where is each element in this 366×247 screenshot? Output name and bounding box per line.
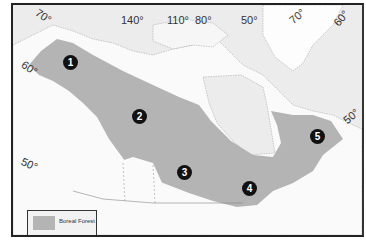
- region-marker-4: 4: [242, 181, 257, 196]
- map-frame: 70° 140° 110° 80° 50° 70° 60° 60° 50° 50…: [11, 3, 364, 237]
- region-marker-2: 2: [132, 109, 147, 124]
- region-marker-3: 3: [177, 165, 192, 180]
- longitude-label: 140°: [121, 15, 144, 26]
- longitude-label: 50°: [241, 15, 258, 26]
- longitude-label: 80°: [195, 15, 212, 26]
- map-legend: Boreal Forest: [27, 210, 97, 236]
- legend-label: Boreal Forest: [59, 218, 95, 224]
- legend-swatch-boreal-forest: [33, 216, 55, 230]
- region-marker-5: 5: [310, 129, 325, 144]
- region-marker-1: 1: [63, 55, 78, 70]
- longitude-label: 110°: [167, 15, 189, 26]
- map-canvas: [13, 5, 362, 235]
